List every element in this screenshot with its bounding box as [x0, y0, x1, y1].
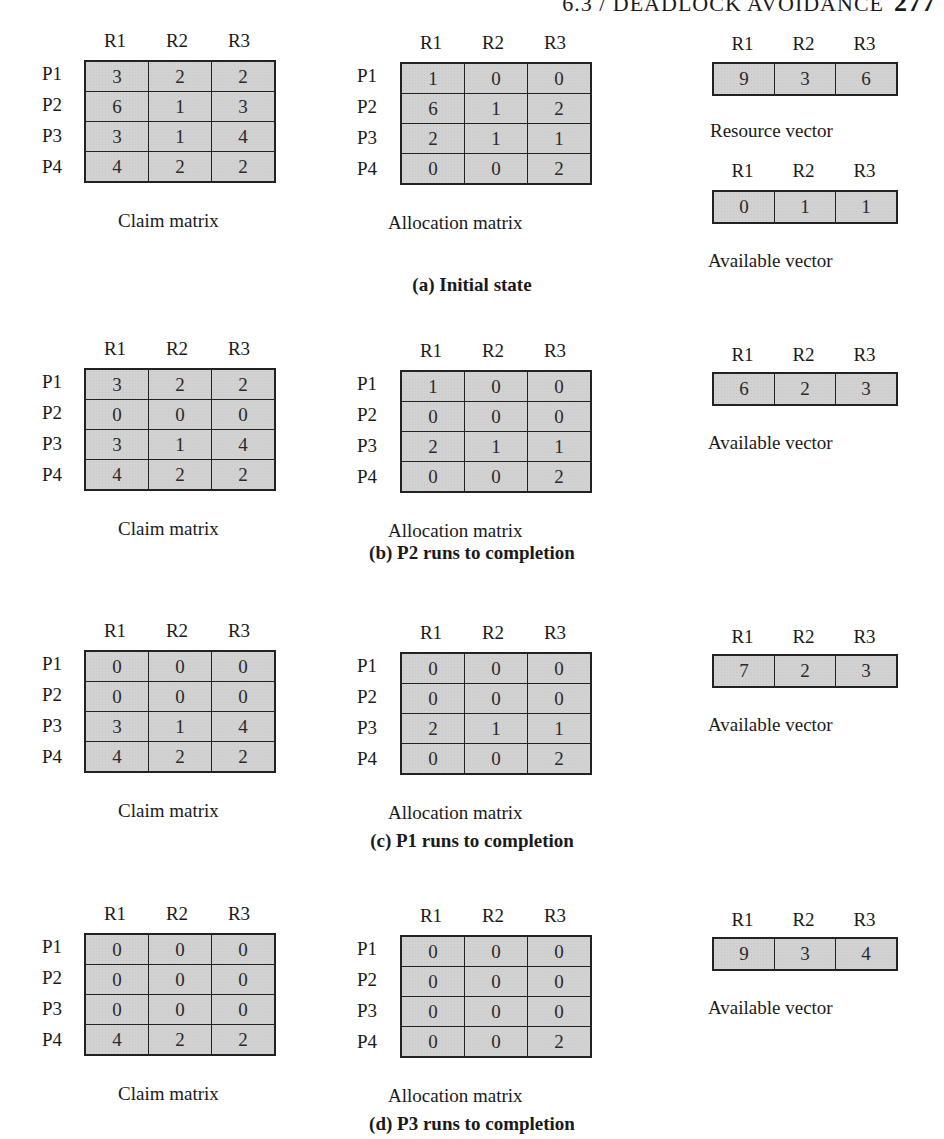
matrix-cell: 0 [401, 402, 465, 432]
allocation-matrix-row-p4: 002 [401, 154, 591, 185]
row-header-p2: P2 [357, 91, 377, 122]
column-header-r1: R1 [84, 30, 146, 52]
matrix-cell: 4 [85, 742, 149, 773]
column-header-r2: R2 [146, 903, 208, 925]
matrix-cell: 2 [401, 714, 465, 744]
matrix-cell: 4 [212, 712, 276, 742]
matrix-cell: 2 [212, 61, 276, 92]
vector-cell: 2 [775, 655, 836, 687]
column-header-r1: R1 [400, 340, 462, 362]
matrix-cell: 0 [401, 684, 465, 714]
matrix-cell: 1 [528, 432, 592, 462]
matrix-cell: 0 [85, 934, 149, 965]
matrix-cell: 6 [401, 94, 465, 124]
vector-cell: 9 [713, 63, 775, 95]
row-headers: P1P2P3P4 [42, 931, 62, 1055]
resource-vector-row: 936 [713, 63, 897, 95]
row-header-p1: P1 [357, 650, 377, 681]
column-headers: R1R2R3 [84, 903, 270, 925]
page-header: 6.3 / DEADLOCK AVOIDANCE277 [562, 0, 936, 18]
claim-matrix-row-p2: 000 [85, 400, 275, 430]
matrix-cell: 1 [401, 63, 465, 94]
allocation-matrix-label: Allocation matrix [388, 520, 523, 542]
column-headers: R1R2R3 [712, 626, 895, 648]
row-headers: P1P2P3P4 [357, 650, 377, 774]
matrix-cell: 0 [85, 682, 149, 712]
allocation-matrix-row-p3: 000 [401, 997, 591, 1027]
row-header-p1: P1 [357, 60, 377, 91]
row-header-p3: P3 [357, 712, 377, 743]
matrix-cell: 0 [528, 402, 592, 432]
row-headers: P1P2P3P4 [42, 648, 62, 772]
matrix-cell: 0 [401, 1027, 465, 1058]
row-header-p4: P4 [42, 741, 62, 772]
column-header-r3: R3 [834, 626, 895, 648]
column-header-r1: R1 [712, 909, 773, 931]
column-headers: R1R2R3 [84, 338, 270, 360]
row-header-p2: P2 [42, 962, 62, 993]
vector-cell: 6 [836, 63, 898, 95]
row-header-p1: P1 [357, 933, 377, 964]
allocation-matrix: 100612211002 [400, 62, 592, 185]
column-header-r3: R3 [524, 905, 586, 927]
matrix-cell: 2 [528, 94, 592, 124]
allocation-matrix-row-p4: 002 [401, 744, 591, 775]
matrix-cell: 0 [212, 651, 276, 682]
vector-cell: 7 [713, 655, 775, 687]
matrix-cell: 2 [528, 744, 592, 775]
column-header-r1: R1 [84, 620, 146, 642]
column-header-r3: R3 [208, 903, 270, 925]
column-headers: R1R2R3 [400, 32, 586, 54]
matrix-cell: 0 [465, 684, 528, 714]
column-header-r3: R3 [208, 620, 270, 642]
matrix-cell: 3 [85, 430, 149, 460]
vector-cell: 9 [713, 938, 775, 970]
matrix-cell: 0 [149, 651, 212, 682]
matrix-cell: 0 [85, 995, 149, 1025]
column-header-r2: R2 [773, 33, 834, 55]
allocation-matrix-row-p3: 211 [401, 714, 591, 744]
matrix-cell: 0 [212, 995, 276, 1025]
matrix-cell: 1 [465, 94, 528, 124]
claim-matrix-row-p1: 000 [85, 651, 275, 682]
matrix-cell: 0 [465, 371, 528, 402]
matrix-cell: 4 [212, 122, 276, 152]
available-vector: 011 [712, 190, 898, 224]
matrix-cell: 0 [85, 651, 149, 682]
claim-matrix-row-p4: 422 [85, 152, 275, 183]
column-header-r2: R2 [773, 160, 834, 182]
vector-cell: 2 [775, 373, 836, 405]
row-headers: P1P2P3P4 [357, 368, 377, 492]
row-header-p2: P2 [357, 399, 377, 430]
vector-cell: 3 [836, 373, 898, 405]
available-vector: 723 [712, 654, 898, 688]
matrix-cell: 1 [149, 430, 212, 460]
allocation-matrix-row-p1: 000 [401, 653, 591, 684]
column-header-r2: R2 [462, 340, 524, 362]
vector-cell: 3 [775, 63, 836, 95]
column-header-r1: R1 [712, 344, 773, 366]
row-header-p1: P1 [42, 648, 62, 679]
claim-matrix-row-p3: 314 [85, 430, 275, 460]
row-headers: P1P2P3P4 [357, 933, 377, 1057]
column-header-r3: R3 [208, 30, 270, 52]
matrix-cell: 0 [465, 63, 528, 94]
matrix-cell: 4 [212, 430, 276, 460]
column-header-r3: R3 [524, 32, 586, 54]
matrix-cell: 0 [212, 400, 276, 430]
column-header-r2: R2 [146, 338, 208, 360]
row-header-p3: P3 [42, 993, 62, 1024]
matrix-cell: 0 [85, 965, 149, 995]
column-header-r3: R3 [524, 340, 586, 362]
row-header-p2: P2 [357, 681, 377, 712]
matrix-cell: 2 [212, 742, 276, 773]
claim-matrix: 322613314422 [84, 60, 276, 183]
column-header-r2: R2 [773, 344, 834, 366]
matrix-cell: 0 [528, 936, 592, 967]
claim-matrix: 000000000422 [84, 933, 276, 1056]
allocation-matrix-row-p3: 211 [401, 124, 591, 154]
allocation-matrix-row-p2: 000 [401, 967, 591, 997]
matrix-cell: 0 [401, 744, 465, 775]
row-header-p4: P4 [357, 743, 377, 774]
column-header-r1: R1 [400, 622, 462, 644]
